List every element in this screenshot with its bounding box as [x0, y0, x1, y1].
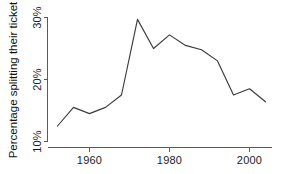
chart-canvas: 30% 20% 10% 1960 1980 2000 Percentage sp…: [0, 0, 281, 174]
y-tick-label-30: 30%: [31, 6, 43, 29]
y-tick-label-10: 10%: [31, 130, 43, 153]
x-tick-label-1980: 1980: [157, 154, 182, 166]
line-chart-figure: 30% 20% 10% 1960 1980 2000 Percentage sp…: [0, 0, 281, 174]
y-axis-title: Percentage splitting their ticket: [7, 1, 19, 158]
x-tick-label-1960: 1960: [77, 154, 102, 166]
x-tick-label-2000: 2000: [237, 154, 262, 166]
y-tick-label-20: 20%: [31, 68, 43, 91]
